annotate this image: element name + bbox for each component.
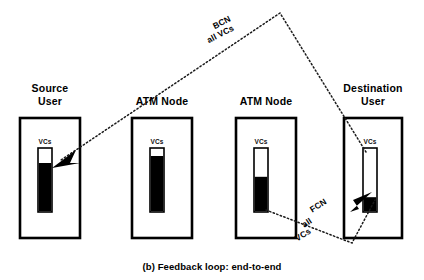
gauge-fill-source-user: [39, 163, 51, 211]
gauge-group-source-user: [38, 148, 52, 212]
gauge-label-atm-node-2: VCs: [246, 138, 276, 145]
feedback-loop-figure: Source User ATM Node ATM Node Destinatio…: [0, 0, 424, 280]
gauge-group-atm-node-2: [254, 148, 268, 212]
gauge-label-source-user: VCs: [30, 138, 60, 145]
node-title-destination-user: Destination User: [334, 82, 412, 107]
gauge-fill-atm-node-2: [255, 177, 267, 211]
gauge-group-atm-node-1: [150, 148, 164, 212]
gauge-label-atm-node-1: VCs: [142, 138, 172, 145]
node-box-group: [20, 118, 402, 238]
node-title-atm-node-1: ATM Node: [127, 95, 197, 108]
gauge-fill-atm-node-1: [151, 156, 163, 211]
gauge-label-destination-user: VCs: [355, 138, 385, 145]
figure-caption: (b) Feedback loop: end-to-end: [0, 261, 424, 272]
node-title-atm-node-2: ATM Node: [231, 95, 301, 108]
gauge-group-destination-user: [363, 148, 377, 212]
node-title-source-user: Source User: [20, 82, 80, 107]
